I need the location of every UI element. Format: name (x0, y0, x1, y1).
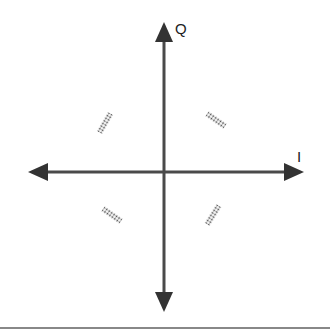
iq-constellation-diagram (0, 0, 330, 334)
i-axis-left-arrow-icon (28, 163, 48, 181)
i-axis-label: I (297, 148, 301, 165)
constellation-point-upper-right (205, 111, 226, 129)
q-axis (155, 22, 173, 312)
constellation-point-upper-left (97, 112, 113, 134)
q-axis-label: Q (175, 20, 187, 37)
q-axis-up-arrow-icon (155, 22, 173, 42)
i-axis-right-arrow-icon (284, 163, 304, 181)
i-axis (28, 163, 304, 181)
constellation-point-lower-left (101, 206, 122, 224)
q-axis-down-arrow-icon (155, 292, 173, 312)
constellation-point-lower-right (205, 204, 222, 226)
